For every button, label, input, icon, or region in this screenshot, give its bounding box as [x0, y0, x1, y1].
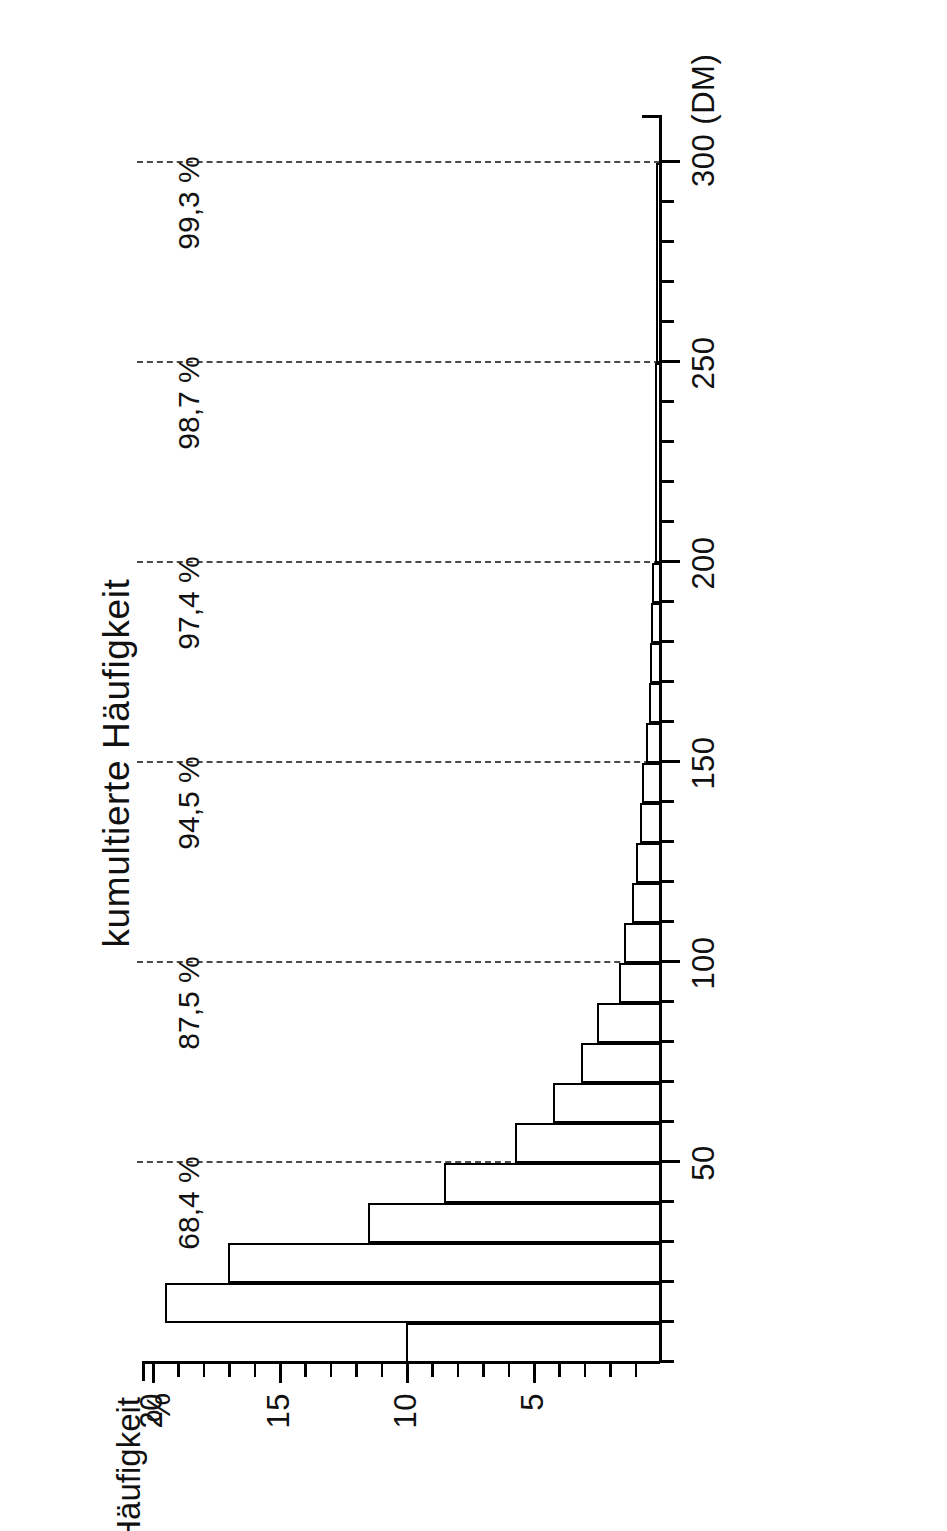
frequency-tick-2: [609, 1363, 612, 1377]
frequency-tick-7: [482, 1363, 485, 1377]
gridline-300dm: [137, 161, 660, 163]
frequency-tick-11: [381, 1363, 384, 1377]
frequency-tick-3: [584, 1363, 587, 1377]
value-tick-50: [660, 1160, 680, 1163]
value-tick-250: [660, 360, 680, 363]
value-tick-170: [660, 680, 674, 683]
value-tick-150: [660, 760, 680, 763]
value-tick-120: [660, 880, 674, 883]
figure-page: 50100150200250300 (DM)510152068,4 %87,5 …: [0, 0, 947, 1531]
value-axis-endcap: [642, 115, 660, 118]
gridline-250dm: [137, 361, 660, 363]
value-tick-290: [660, 200, 674, 203]
value-tick-10: [660, 1320, 674, 1323]
value-tick-180: [660, 640, 674, 643]
frequency-axis-unit: %: [140, 1393, 178, 1422]
cumulative-percent-label-993: 99,3 %: [172, 156, 206, 249]
frequency-tick-18: [203, 1363, 206, 1377]
cumulative-percent-label-945: 94,5 %: [172, 756, 206, 849]
value-tick-140: [660, 800, 674, 803]
bar-140-150-dm: [642, 763, 660, 803]
frequency-tick-15: [279, 1363, 282, 1383]
frequency-tick-20: [152, 1363, 155, 1383]
frequency-tick-19: [177, 1363, 180, 1377]
frequency-tick-6: [508, 1363, 511, 1377]
frequency-tick-8: [457, 1363, 460, 1377]
bar-60-70-dm: [553, 1083, 660, 1123]
bar-170-180-dm: [650, 643, 660, 683]
chart-rotated-container: 50100150200250300 (DM)510152068,4 %87,5 …: [95, 81, 855, 1441]
cumulative-percent-label-875: 87,5 %: [172, 956, 206, 1049]
value-tick-190: [660, 600, 674, 603]
value-tick-label-100: 100: [686, 936, 722, 989]
frequency-tick-13: [330, 1363, 333, 1377]
value-tick-240: [660, 400, 674, 403]
value-tick-260: [660, 320, 674, 323]
bar-100-110-dm: [624, 923, 660, 963]
frequency-tick-5: [533, 1363, 536, 1383]
frequency-tick-4: [558, 1363, 561, 1377]
bar-80-90-dm: [597, 1003, 661, 1043]
value-tick-label-200: 200: [686, 536, 722, 589]
bar-20-30-dm: [228, 1243, 660, 1283]
bar-190-200-dm: [652, 563, 660, 603]
bar-120-130-dm: [636, 843, 660, 883]
bar-0-10-dm: [406, 1323, 660, 1363]
value-tick-270: [660, 280, 674, 283]
chart-title: kumultierte Häufigkeit: [96, 579, 138, 948]
bar-70-80-dm: [581, 1043, 660, 1083]
frequency-tick-9: [431, 1363, 434, 1377]
frequency-tick-10: [406, 1363, 409, 1383]
value-tick-40: [660, 1200, 674, 1203]
bar-40-50-dm: [444, 1163, 660, 1203]
gridline-200dm: [137, 561, 660, 563]
value-tick-90: [660, 1000, 674, 1003]
bar-200-250-dm: [655, 363, 660, 563]
bar-160-170-dm: [649, 683, 660, 723]
value-tick-200: [660, 560, 680, 563]
gridline-100dm: [137, 961, 660, 963]
value-tick-20: [660, 1280, 674, 1283]
bar-chart-plot: 50100150200250300 (DM)510152068,4 %87,5 …: [95, 81, 855, 1441]
frequency-tick-17: [228, 1363, 231, 1377]
value-tick-230: [660, 440, 674, 443]
bar-130-140-dm: [640, 803, 660, 843]
value-tick-110: [660, 920, 674, 923]
value-tick-280: [660, 240, 674, 243]
bar-150-160-dm: [646, 723, 660, 763]
frequency-axis-endcap: [142, 1363, 145, 1381]
frequency-tick-14: [304, 1363, 307, 1377]
value-tick-label-150: 150: [686, 736, 722, 789]
value-tick-0: [660, 1360, 674, 1363]
value-tick-300: [660, 160, 680, 163]
frequency-tick-12: [355, 1363, 358, 1377]
frequency-tick-1: [635, 1363, 638, 1377]
cumulative-percent-label-684: 68,4 %: [172, 1156, 206, 1249]
cumulative-percent-label-974: 97,4 %: [172, 556, 206, 649]
value-tick-label-300: 300 (DM): [686, 54, 722, 187]
value-tick-60: [660, 1120, 674, 1123]
bar-30-40-dm: [368, 1203, 660, 1243]
frequency-tick-label-10: 10: [388, 1393, 424, 1428]
value-tick-30: [660, 1240, 674, 1243]
value-tick-label-250: 250: [686, 336, 722, 389]
value-tick-210: [660, 520, 674, 523]
frequency-tick-label-5: 5: [515, 1393, 551, 1411]
value-tick-80: [660, 1040, 674, 1043]
frequency-tick-label-15: 15: [261, 1393, 297, 1428]
value-tick-70: [660, 1080, 674, 1083]
value-tick-100: [660, 960, 680, 963]
gridline-150dm: [137, 761, 660, 763]
value-tick-label-50: 50: [686, 1145, 722, 1180]
bar-180-190-dm: [651, 603, 660, 643]
value-tick-130: [660, 840, 674, 843]
bar-90-100-dm: [619, 963, 660, 1003]
value-tick-160: [660, 720, 674, 723]
bar-50-60-dm: [515, 1123, 660, 1163]
bar-10-20-dm: [165, 1283, 660, 1323]
bar-250-300-dm: [656, 163, 660, 363]
value-tick-220: [660, 480, 674, 483]
bar-110-120-dm: [632, 883, 660, 923]
cumulative-percent-label-987: 98,7 %: [172, 356, 206, 449]
frequency-tick-16: [254, 1363, 257, 1377]
